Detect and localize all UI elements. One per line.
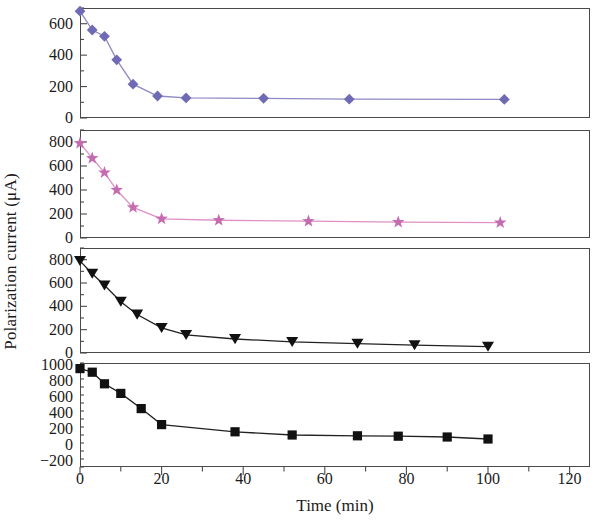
data-point-marker xyxy=(99,31,110,42)
data-point-marker xyxy=(302,215,315,227)
y-axis-tick-label: 600 xyxy=(49,388,73,406)
series-line xyxy=(80,369,488,439)
series-line xyxy=(80,11,504,99)
y-axis-tick-label: 800 xyxy=(49,133,73,151)
panel-star: 0200400600800 xyxy=(80,130,590,238)
y-axis-tick-label: 800 xyxy=(49,251,73,269)
y-axis-tick-label: 600 xyxy=(49,15,73,33)
y-axis-tick-label: 600 xyxy=(49,157,73,175)
data-point-marker xyxy=(116,389,125,398)
data-point-marker xyxy=(156,323,168,333)
data-point-marker xyxy=(100,379,109,388)
polarization-current-figure: Polarization current (μA) 02004006000200… xyxy=(0,0,597,523)
data-point-marker xyxy=(131,310,143,320)
data-point-marker xyxy=(75,364,84,373)
data-point-marker xyxy=(499,94,510,105)
panel-square: −20002004006008001000 xyxy=(80,363,590,467)
data-point-marker xyxy=(157,420,166,429)
series-canvas xyxy=(80,363,590,467)
panel-triangle-down: 0200400600800 xyxy=(80,248,590,353)
y-axis-tick-label: 0 xyxy=(65,229,73,247)
y-axis-tick-label: 1000 xyxy=(41,356,73,374)
data-point-marker xyxy=(443,432,452,441)
data-point-marker xyxy=(111,54,122,65)
y-axis-tick-label: 0 xyxy=(65,436,73,454)
data-point-marker xyxy=(344,94,355,105)
y-axis-tick-label: 400 xyxy=(49,404,73,422)
panel-diamond: 0200400600 xyxy=(80,8,590,118)
x-axis-title: Time (min) xyxy=(80,496,590,516)
data-point-marker xyxy=(87,25,98,36)
data-point-marker xyxy=(152,91,163,102)
data-point-marker xyxy=(181,92,192,103)
y-axis-tick-label: 800 xyxy=(49,372,73,390)
data-point-marker xyxy=(394,432,403,441)
data-point-marker xyxy=(258,93,269,104)
y-axis-tick-label: 400 xyxy=(49,181,73,199)
data-point-marker xyxy=(353,431,362,440)
data-point-marker xyxy=(230,427,239,436)
data-point-marker xyxy=(155,212,168,224)
y-axis-tick-label: 600 xyxy=(49,274,73,292)
x-axis-tick-marks xyxy=(80,467,596,479)
y-axis-tick-label: −200 xyxy=(40,452,73,470)
data-point-marker xyxy=(494,216,507,228)
data-point-marker xyxy=(110,183,123,195)
data-point-marker xyxy=(75,6,86,17)
y-axis-tick-label: 200 xyxy=(49,420,73,438)
series-canvas xyxy=(80,8,590,118)
series-canvas xyxy=(80,130,590,238)
series-canvas xyxy=(80,248,590,353)
data-point-marker xyxy=(128,79,139,90)
y-axis-tick-label: 200 xyxy=(49,205,73,223)
y-axis-tick-label: 200 xyxy=(49,321,73,339)
data-point-marker xyxy=(392,216,405,228)
data-point-marker xyxy=(74,137,87,149)
data-point-marker xyxy=(137,404,146,413)
series-line xyxy=(80,261,488,347)
y-axis-tick-label: 0 xyxy=(65,109,73,127)
y-axis-tick-label: 200 xyxy=(49,78,73,96)
data-point-marker xyxy=(88,368,97,377)
data-point-marker xyxy=(212,214,225,226)
series-line xyxy=(80,143,500,222)
y-axis-title: Polarization current (μA) xyxy=(0,0,24,523)
data-point-marker xyxy=(483,434,492,443)
y-axis-tick-label: 400 xyxy=(49,297,73,315)
y-axis-tick-label: 400 xyxy=(49,46,73,64)
data-point-marker xyxy=(288,430,297,439)
